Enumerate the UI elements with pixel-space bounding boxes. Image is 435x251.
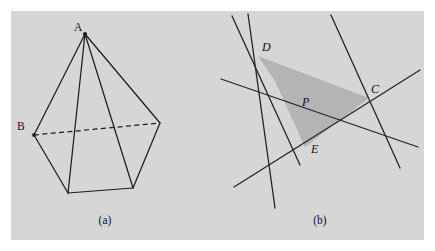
vertex-label-d: D — [261, 40, 271, 54]
vertex-label-a: A — [74, 21, 83, 33]
pyramid-vertex-a-dot — [83, 32, 87, 36]
pyramid-vertex-b-dot — [32, 133, 36, 137]
geometry-figure: A B (a) D C E P (b) — [0, 0, 435, 251]
vertex-label-c: C — [371, 82, 380, 96]
region-label-p: P — [301, 95, 310, 109]
panel-b-caption: (b) — [313, 214, 327, 227]
panel-a-caption: (a) — [99, 214, 112, 227]
figure-panel-background — [11, 11, 424, 240]
figure-container: A B (a) D C E P (b) — [0, 0, 435, 251]
vertex-label-b: B — [17, 120, 25, 132]
vertex-label-e: E — [310, 142, 319, 156]
